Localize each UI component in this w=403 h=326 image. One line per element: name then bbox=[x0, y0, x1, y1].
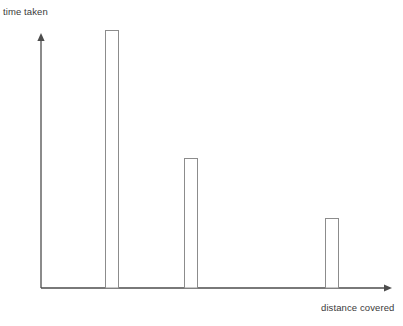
bar bbox=[106, 31, 119, 289]
bar-series-group bbox=[106, 31, 339, 289]
bar-chart-figure: time taken distance covered bbox=[0, 0, 403, 326]
y-axis-arrow-icon bbox=[37, 33, 44, 41]
chart-plot-area bbox=[0, 0, 403, 326]
bar bbox=[185, 159, 198, 289]
x-axis-arrow-icon bbox=[384, 284, 392, 291]
bar bbox=[326, 219, 339, 289]
